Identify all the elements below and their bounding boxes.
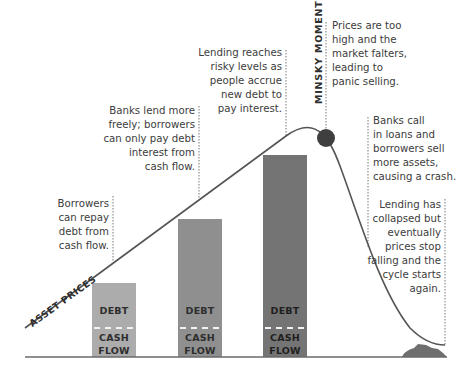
- annotation-line: collapsed but: [367, 212, 441, 226]
- bar-1-cashflow-label: CASH FLOW: [92, 331, 136, 357]
- annotation-borrowers-repay: Borrowers can repay debt from cash flow.: [57, 197, 109, 253]
- recovery-mound: [402, 344, 447, 357]
- annotation-line: pay interest.: [198, 102, 282, 116]
- minsky-moment-dot: [317, 129, 335, 147]
- annotation-line: again.: [367, 282, 441, 296]
- annotation-line: borrowers sell: [373, 142, 456, 156]
- bar-2-cashflow-label: CASH FLOW: [178, 331, 222, 357]
- bar-3-cashflow-label: CASH FLOW: [263, 331, 307, 357]
- annotation-line: market falters,: [332, 47, 407, 61]
- annotation-line: causing a crash.: [373, 170, 456, 184]
- annotation-line: Prices are too: [332, 19, 407, 33]
- bar-2-flow-label: FLOW: [178, 344, 222, 357]
- annotation-line: leading to: [332, 61, 407, 75]
- bar-3-flow-label: FLOW: [263, 344, 307, 357]
- annotation-line: high and the: [332, 33, 407, 47]
- annotation-line: falling and the: [367, 254, 441, 268]
- annotation-prices-too-high: Prices are too high and the market falte…: [332, 19, 407, 89]
- bar-1-flow-label: FLOW: [92, 344, 136, 357]
- bar-3-cash-label: CASH: [263, 331, 307, 344]
- annotation-line: Lending reaches: [198, 46, 282, 60]
- annotation-line: new debt to: [198, 88, 282, 102]
- annotation-line: debt from: [57, 225, 109, 239]
- annotation-line: can only pay debt: [104, 132, 196, 146]
- annotation-line: in loans and: [373, 128, 456, 142]
- annotation-line: can repay: [57, 211, 109, 225]
- annotation-line: Borrowers: [57, 197, 109, 211]
- annotation-line: Lending has: [367, 198, 441, 212]
- bar-1-debt-label: DEBT: [92, 304, 136, 317]
- minsky-moment-label: MINSKY MOMENT: [313, 0, 324, 104]
- annotation-banks-lend-more: Banks lend more freely; borrowers can on…: [104, 104, 196, 174]
- annotation-line: Banks call: [373, 114, 456, 128]
- annotation-line: cycle starts: [367, 268, 441, 282]
- annotation-line: Banks lend more: [104, 104, 196, 118]
- annotation-line: panic selling.: [332, 75, 407, 89]
- annotation-line: cash flow.: [104, 160, 196, 174]
- annotation-lending-collapsed: Lending has collapsed but eventually pri…: [367, 198, 441, 296]
- annotation-line: more assets,: [373, 156, 456, 170]
- bar-1-cash-label: CASH: [92, 331, 136, 344]
- bar-2-cash-label: CASH: [178, 331, 222, 344]
- annotation-line: freely; borrowers: [104, 118, 196, 132]
- annotation-line: prices stop: [367, 240, 441, 254]
- annotation-lending-risky: Lending reaches risky levels as people a…: [198, 46, 282, 116]
- annotation-line: risky levels as: [198, 60, 282, 74]
- annotation-line: people accrue: [198, 74, 282, 88]
- bar-3: [263, 155, 307, 357]
- annotation-line: interest from: [104, 146, 196, 160]
- annotation-line: cash flow.: [57, 239, 109, 253]
- bar-2-debt-label: DEBT: [178, 304, 222, 317]
- bar-3-debt-label: DEBT: [263, 304, 307, 317]
- annotation-line: eventually: [367, 226, 441, 240]
- annotation-banks-call-loans: Banks call in loans and borrowers sell m…: [373, 114, 456, 184]
